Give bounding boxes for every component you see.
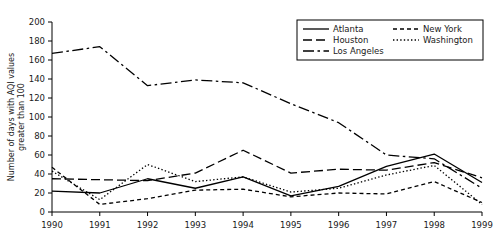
y-tick-label: 40 bbox=[34, 169, 45, 179]
x-tick-label: 1998 bbox=[423, 220, 445, 230]
x-tick-label: 1995 bbox=[280, 220, 302, 230]
x-tick-label: 1992 bbox=[137, 220, 159, 230]
legend-label-los-angeles: Los Angeles bbox=[333, 46, 384, 56]
x-tick-label: 1994 bbox=[232, 220, 254, 230]
series-line-houston bbox=[52, 150, 482, 180]
x-tick-label: 1999 bbox=[471, 220, 493, 230]
legend-label-houston: Houston bbox=[333, 35, 368, 45]
y-axis-title-line1: Number of days with AQI values bbox=[7, 53, 16, 181]
y-tick-label: 180 bbox=[29, 36, 45, 46]
legend-label-washington: Washington bbox=[423, 35, 473, 45]
legend-label-new-york: New York bbox=[423, 24, 462, 34]
x-tick-label: 1990 bbox=[41, 220, 63, 230]
y-tick-label: 20 bbox=[34, 188, 45, 198]
y-tick-label: 60 bbox=[34, 150, 45, 160]
legend-label-atlanta: Atlanta bbox=[333, 24, 364, 34]
series-line-los-angeles bbox=[52, 47, 482, 189]
chart-canvas: 0204060801001201401601802001990199119921… bbox=[0, 0, 494, 238]
y-tick-label: 160 bbox=[29, 55, 45, 65]
series-line-atlanta bbox=[52, 154, 482, 196]
y-axis-title: Number of days with AQI valuesgreater th… bbox=[7, 53, 26, 181]
series-line-washington bbox=[52, 165, 482, 205]
x-tick-label: 1997 bbox=[376, 220, 398, 230]
y-tick-label: 120 bbox=[29, 93, 45, 103]
aqi-line-chart: 0204060801001201401601802001990199119921… bbox=[0, 0, 494, 238]
y-axis-title-line2: greater than 100 bbox=[17, 83, 26, 151]
x-tick-label: 1993 bbox=[185, 220, 207, 230]
y-tick-label: 200 bbox=[29, 17, 45, 27]
y-tick-label: 100 bbox=[29, 112, 45, 122]
y-tick-label: 140 bbox=[29, 74, 45, 84]
y-tick-label: 80 bbox=[34, 131, 45, 141]
x-tick-label: 1991 bbox=[89, 220, 111, 230]
y-tick-label: 0 bbox=[40, 207, 45, 217]
x-tick-label: 1996 bbox=[328, 220, 350, 230]
